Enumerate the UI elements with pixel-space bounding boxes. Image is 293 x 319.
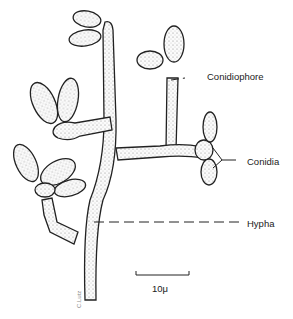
conidium bbox=[164, 26, 184, 62]
label-conidia: Conidia bbox=[247, 156, 279, 167]
conidium bbox=[8, 141, 43, 186]
label-hypha: Hypha bbox=[247, 218, 274, 229]
scale-bar bbox=[136, 271, 189, 275]
conidiophore bbox=[166, 78, 178, 150]
conidia-leader bbox=[213, 148, 236, 160]
label-conidiophore: Conidiophore bbox=[207, 71, 264, 82]
scale-bar-label: 10μ bbox=[152, 283, 168, 294]
conidium bbox=[54, 77, 81, 124]
conidium bbox=[203, 112, 217, 142]
conidium bbox=[35, 183, 55, 197]
conidium bbox=[195, 140, 213, 160]
conidium bbox=[201, 159, 217, 185]
main-hypha bbox=[85, 22, 117, 300]
conidium bbox=[137, 51, 163, 69]
conidium bbox=[68, 28, 102, 48]
artist-signature: C.Lutz bbox=[76, 291, 82, 308]
conidium bbox=[72, 9, 102, 30]
fungus-illustration: Conidiophore Conidia Hypha 10μ C.Lutz bbox=[0, 0, 293, 319]
